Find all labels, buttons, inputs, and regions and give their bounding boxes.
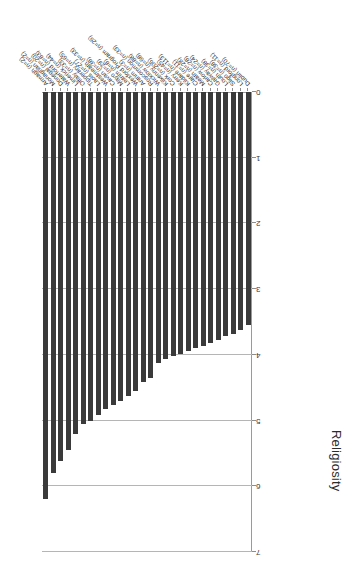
bar[interactable] <box>51 92 56 473</box>
bar[interactable] <box>223 92 228 336</box>
category-tick-mark <box>45 88 46 91</box>
value-tick-mark <box>252 91 256 92</box>
bar-slot <box>126 92 131 552</box>
category-tick-mark <box>165 88 166 91</box>
category-tick-mark <box>67 88 68 91</box>
bar-slot <box>103 92 108 552</box>
value-axis-title: Religiosity <box>329 430 344 491</box>
bar[interactable] <box>193 92 198 348</box>
value-tick-label: 5 <box>252 417 276 425</box>
value-tick-label: 2 <box>252 219 276 227</box>
bar[interactable] <box>201 92 206 346</box>
bar-slot <box>118 92 123 552</box>
bar-slot <box>238 92 243 552</box>
bar[interactable] <box>141 92 146 382</box>
bar[interactable] <box>88 92 93 421</box>
value-tick-label: 6 <box>252 482 276 490</box>
bar-slot <box>111 92 116 552</box>
category-tick-mark <box>112 88 113 91</box>
value-tick-mark <box>252 354 256 355</box>
bar-slot <box>171 92 176 552</box>
bar[interactable] <box>111 92 116 405</box>
bar-slot <box>231 92 236 552</box>
bar-slot <box>216 92 221 552</box>
bar[interactable] <box>73 92 78 434</box>
category-tick-mark <box>142 88 143 91</box>
bar-slot <box>133 92 138 552</box>
bar[interactable] <box>148 92 153 378</box>
bar[interactable] <box>96 92 101 415</box>
bar-slot <box>156 92 161 552</box>
bar-slot <box>96 92 101 552</box>
category-tick-mark <box>90 88 91 91</box>
category-tick-mark <box>172 88 173 91</box>
value-tick-label: 4 <box>252 351 276 359</box>
bar[interactable] <box>118 92 123 401</box>
bar-slot <box>148 92 153 552</box>
bar[interactable] <box>238 92 243 330</box>
value-tick-mark <box>252 157 256 158</box>
value-tick-mark <box>252 222 256 223</box>
category-tick-mark <box>225 88 226 91</box>
category-tick-mark <box>75 88 76 91</box>
category-tick-mark <box>195 88 196 91</box>
category-tick-mark <box>127 88 128 91</box>
bar-slot <box>51 92 56 552</box>
bar[interactable] <box>231 92 236 334</box>
value-tick-mark <box>252 288 256 289</box>
bar-slot <box>73 92 78 552</box>
value-tick-mark <box>252 551 256 552</box>
bar-slot <box>201 92 206 552</box>
category-tick-mark <box>187 88 188 91</box>
category-tick-mark <box>202 88 203 91</box>
bar-slot <box>58 92 63 552</box>
value-tick-mark <box>252 420 256 421</box>
plot-area: 01234567 <box>42 92 252 552</box>
category-tick-mark <box>97 88 98 91</box>
bar[interactable] <box>216 92 221 340</box>
category-tick-mark <box>180 88 181 91</box>
category-tick-mark <box>217 88 218 91</box>
value-tick-label: 1 <box>252 154 276 162</box>
bar[interactable] <box>171 92 176 356</box>
bar-slot <box>88 92 93 552</box>
category-tick-mark <box>232 88 233 91</box>
bar-slot <box>178 92 183 552</box>
bar-slot <box>208 92 213 552</box>
bar[interactable] <box>246 92 251 325</box>
bar-slot <box>141 92 146 552</box>
category-tick-mark <box>157 88 158 91</box>
category-tick-mark <box>105 88 106 91</box>
bar[interactable] <box>163 92 168 359</box>
category-tick-mark <box>247 88 248 91</box>
bar[interactable] <box>126 92 131 396</box>
bar-series <box>42 92 252 552</box>
value-tick-label: 0 <box>252 88 276 96</box>
bar-slot <box>81 92 86 552</box>
category-tick-mark <box>210 88 211 91</box>
bar[interactable] <box>156 92 161 363</box>
bar[interactable] <box>103 92 108 409</box>
bar-slot <box>43 92 48 552</box>
bar-slot <box>186 92 191 552</box>
category-tick-mark <box>82 88 83 91</box>
bar-slot <box>163 92 168 552</box>
bar[interactable] <box>178 92 183 354</box>
category-tick-mark <box>240 88 241 91</box>
bar[interactable] <box>186 92 191 351</box>
bar-slot <box>66 92 71 552</box>
bar-slot <box>223 92 228 552</box>
bar[interactable] <box>133 92 138 391</box>
category-tick-mark <box>60 88 61 91</box>
bar[interactable] <box>66 92 71 450</box>
bar[interactable] <box>58 92 63 461</box>
bar[interactable] <box>43 92 48 499</box>
value-tick-label: 7 <box>252 548 276 556</box>
category-tick-mark <box>150 88 151 91</box>
bar[interactable] <box>81 92 86 424</box>
category-tick-mark <box>52 88 53 91</box>
category-axis-labels: Dublin (n=70)Longford (n=11)Sligo (n=38)… <box>42 1 252 91</box>
bar[interactable] <box>208 92 213 343</box>
